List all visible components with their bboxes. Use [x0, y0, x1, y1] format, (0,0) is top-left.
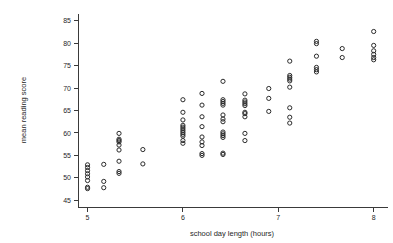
data-point — [117, 148, 121, 152]
data-point — [181, 110, 185, 114]
data-point — [117, 159, 121, 163]
data-point — [102, 179, 106, 183]
data-point — [288, 85, 292, 89]
y-tick-label: 75 — [63, 62, 71, 69]
x-axis: 5678 — [78, 207, 388, 221]
data-point — [243, 138, 247, 142]
y-tick-label: 80 — [63, 40, 71, 47]
data-point — [200, 135, 204, 139]
data-point — [117, 131, 121, 135]
x-tick-label: 7 — [276, 214, 280, 221]
data-point — [200, 115, 204, 119]
x-tick-label: 6 — [181, 214, 185, 221]
data-point — [102, 162, 106, 166]
data-point — [288, 115, 292, 119]
data-point — [340, 46, 344, 50]
data-point — [181, 138, 185, 142]
scatter-plot-figure: 455055606570758085 5678 school day lengt… — [0, 0, 393, 243]
data-point — [267, 86, 271, 90]
plot-canvas: 455055606570758085 5678 school day lengt… — [0, 0, 393, 243]
data-point-layer — [85, 29, 375, 190]
data-point — [288, 106, 292, 110]
data-point — [267, 96, 271, 100]
y-tick-label: 60 — [63, 130, 71, 137]
data-point — [141, 162, 145, 166]
y-tick-label: 65 — [63, 107, 71, 114]
data-point — [314, 54, 318, 58]
y-tick-label: 85 — [63, 17, 71, 24]
data-point — [288, 121, 292, 125]
data-point — [267, 109, 271, 113]
y-tick-label: 50 — [63, 174, 71, 181]
x-tick-label: 8 — [372, 214, 376, 221]
data-point — [200, 103, 204, 107]
data-point — [85, 163, 89, 167]
y-tick-label: 55 — [63, 152, 71, 159]
data-point — [221, 79, 225, 83]
data-point — [372, 29, 376, 33]
data-point — [200, 125, 204, 129]
data-point — [102, 186, 106, 190]
data-point — [288, 59, 292, 63]
data-point — [181, 98, 185, 102]
data-point — [340, 55, 344, 59]
y-tick-label: 45 — [63, 197, 71, 204]
data-point — [141, 147, 145, 151]
x-tick-label: 5 — [86, 214, 90, 221]
data-point — [181, 118, 185, 122]
data-point — [243, 92, 247, 96]
data-point — [200, 91, 204, 95]
y-axis: 455055606570758085 — [63, 14, 78, 207]
y-axis-title: mean reading score — [19, 77, 28, 143]
data-point — [243, 131, 247, 135]
data-point — [372, 43, 376, 47]
y-tick-label: 70 — [63, 85, 71, 92]
x-axis-title: school day length (hours) — [190, 229, 275, 238]
